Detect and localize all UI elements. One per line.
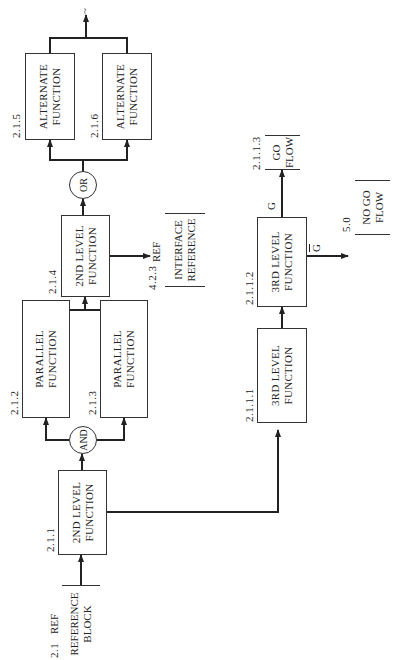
interface-ref-number: 4.2.3 <box>146 266 158 291</box>
block-number-2-1-3: 2.1.3 <box>86 391 98 416</box>
reference-block: REF REFERENCE BLOCK <box>62 585 100 660</box>
go-flow-reference: GO FLOW <box>265 135 300 170</box>
interface-ref-label: REF <box>150 242 162 262</box>
interface-reference: INTERFACE REFERENCE <box>165 213 205 287</box>
or-gate: OR <box>69 171 97 199</box>
block-number-2-1-5: 2.1.5 <box>10 114 22 139</box>
ref-block-number: 2.1 <box>48 643 60 658</box>
output-continuation-symbol: ~ <box>78 8 90 14</box>
and-gate: AND <box>69 426 97 454</box>
go-label: G <box>265 202 277 210</box>
block-2-1-1-2[interactable]: 3RD LEVEL FUNCTION <box>257 217 307 307</box>
block-2-1-4[interactable]: 2ND LEVEL FUNCTION <box>61 215 110 297</box>
block-2-1-2[interactable]: PARALLEL FUNCTION <box>22 300 70 418</box>
block-number-2-1-2: 2.1.2 <box>8 391 20 416</box>
no-go-flow-number: 5.0 <box>340 217 352 232</box>
functional-flow-diagram: 2.1 REF REFERENCE BLOCK 2.1.1 2ND LEVEL … <box>0 0 398 660</box>
block-2-1-5[interactable]: ALTERNATE FUNCTION <box>25 53 75 140</box>
block-2-1-3[interactable]: PARALLEL FUNCTION <box>100 300 148 418</box>
go-flow-number: 2.1.1.3 <box>250 136 262 170</box>
block-number-2-1-6: 2.1.6 <box>88 114 100 139</box>
no-go-flow-reference: NO GO FLOW <box>355 180 390 235</box>
block-number-2-1-1-1: 2.1.1.1 <box>243 388 255 422</box>
no-go-label: G <box>310 244 322 252</box>
block-number-2-1-1-2: 2.1.1.2 <box>243 271 255 305</box>
block-number-2-1-1: 2.1.1 <box>44 528 56 553</box>
block-2-1-1-1[interactable]: 3RD LEVEL FUNCTION <box>257 328 307 423</box>
block-2-1-1[interactable]: 2ND LEVEL FUNCTION <box>58 470 107 555</box>
block-2-1-6[interactable]: ALTERNATE FUNCTION <box>102 53 152 140</box>
ref-label: REF <box>48 614 61 634</box>
block-number-2-1-4: 2.1.4 <box>46 270 58 295</box>
